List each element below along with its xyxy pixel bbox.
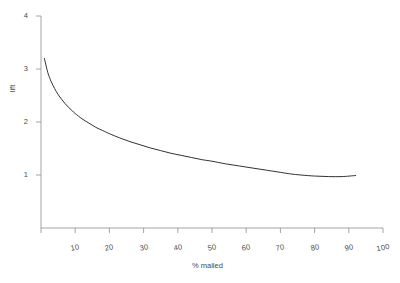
y-tick-label: 4 [12,11,28,20]
plot-area [0,0,400,283]
y-axis-title: lift [8,85,17,93]
y-tick-label: 1 [12,170,28,179]
x-axis-title: % mailed [192,261,223,270]
lift-chart-figure: 1234 102030405060708090100 lift % mailed [0,0,400,283]
y-axis-ticks [36,16,41,175]
lift-curve-path [44,58,355,176]
y-tick-label: 2 [12,117,28,126]
x-axis-ticks [41,228,383,233]
y-tick-label: 3 [12,64,28,73]
